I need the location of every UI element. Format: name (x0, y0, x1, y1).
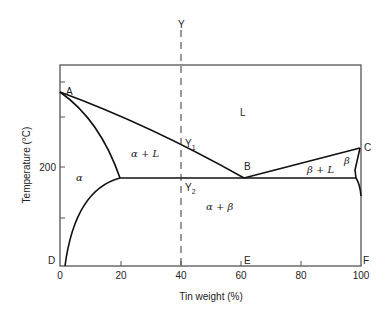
point-a-label: A (66, 86, 73, 97)
point-c-label: C (364, 142, 371, 153)
svg-text:40: 40 (175, 270, 187, 281)
region-liquid-label: L (240, 107, 246, 118)
y-line-label: Y (178, 19, 185, 30)
y-tick-label-200: 200 (39, 162, 56, 173)
liquidus-left-curve (60, 92, 244, 178)
point-e-label: E (244, 255, 251, 266)
region-beta-label: β (343, 155, 350, 166)
phase-diagram: Y Y1 Y2 A B C D E F L α + L α α + β β + … (0, 0, 391, 320)
region-alpha-label: α (76, 172, 83, 183)
liquidus-right-line (244, 148, 360, 178)
y-axis-title: Temperature (°C) (21, 127, 32, 204)
y-ticks (60, 82, 65, 218)
solidus-beta-line (355, 148, 360, 178)
region-alpha-liquid-label: α + L (131, 148, 159, 159)
region-beta-liquid-label: β + L (306, 164, 335, 175)
svg-text:100: 100 (353, 270, 370, 281)
svg-text:0: 0 (57, 270, 63, 281)
x-tick-labels: 0 20 40 60 80 100 (57, 270, 370, 281)
solvus-beta-curve (356, 178, 361, 196)
point-d-label: D (48, 255, 55, 266)
solidus-left-curve (60, 92, 120, 178)
point-b-label: B (244, 161, 251, 172)
svg-text:60: 60 (235, 270, 247, 281)
svg-text:20: 20 (115, 270, 127, 281)
point-f-label: F (363, 255, 369, 266)
x-ticks (121, 261, 301, 266)
solvus-alpha-curve (65, 178, 120, 266)
region-alpha-beta-label: α + β (206, 201, 233, 212)
x-axis-title: Tin weight (%) (179, 291, 243, 302)
y2-label: Y2 (185, 182, 196, 195)
svg-text:80: 80 (295, 270, 307, 281)
